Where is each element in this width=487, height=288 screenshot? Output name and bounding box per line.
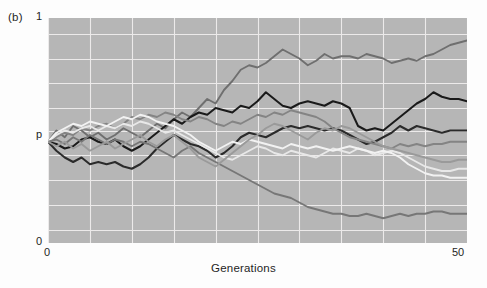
plot-area bbox=[48, 18, 467, 243]
chart-canvas bbox=[48, 18, 467, 243]
x-axis-tick-end: 50 bbox=[452, 246, 464, 258]
data-traces bbox=[48, 41, 467, 219]
x-axis-tick-start: 0 bbox=[44, 246, 50, 258]
x-axis-label: Generations bbox=[0, 262, 487, 274]
y-axis-tick-top: 1 bbox=[26, 10, 42, 22]
y-axis-tick-p: p bbox=[26, 128, 42, 140]
grid-lines bbox=[48, 18, 467, 243]
figure-panel-b: (b) 1 p 0 0 50 Generations bbox=[0, 0, 487, 288]
trace-trajectory-3 bbox=[48, 126, 467, 169]
y-axis-tick-bottom: 0 bbox=[26, 235, 42, 247]
panel-label: (b) bbox=[8, 11, 23, 23]
